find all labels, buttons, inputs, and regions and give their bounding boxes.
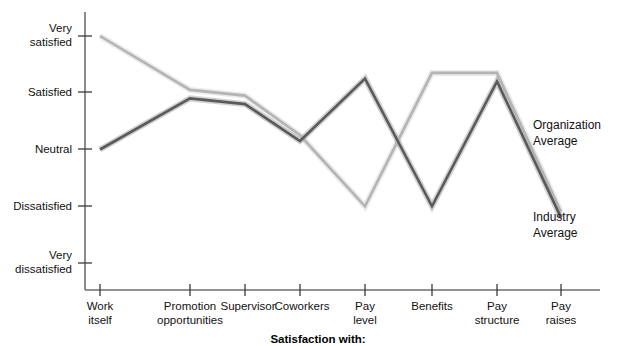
- x-tick-label-pay-structure-line1: Pay: [487, 300, 507, 312]
- label-organization-average-line1: Organization: [533, 118, 601, 132]
- y-tick-label-satisfied: Satisfied: [28, 86, 72, 98]
- y-tick-label-very-satisfied-line2: satisfied: [30, 36, 72, 48]
- x-tick-label-supervisor: Supervisor: [221, 300, 276, 312]
- x-tick-label-pay-level-line2: level: [353, 314, 377, 326]
- y-axis-tick-labels: Very satisfied Satisfied Neutral Dissati…: [13, 22, 72, 275]
- x-tick-label-pay-raises-line1: Pay: [551, 300, 571, 312]
- label-industry-average-line2: Average: [533, 226, 578, 240]
- x-tick-label-pay-raises-line2: raises: [546, 314, 577, 326]
- y-tick-label-neutral: Neutral: [35, 143, 72, 155]
- x-tick-label-work-itself-line1: Work: [87, 300, 114, 312]
- x-tick-label-coworkers: Coworkers: [275, 300, 330, 312]
- series-organization-average-shadow: [100, 36, 561, 212]
- label-industry-average-line1: Industry: [533, 210, 576, 224]
- y-tick-label-very-dissatisfied-line2: dissatisfied: [15, 263, 72, 275]
- label-organization-average-line2: Average: [533, 134, 578, 148]
- x-axis-tick-labels: Work itself Promotion opportunities Supe…: [87, 300, 577, 326]
- y-tick-label-dissatisfied: Dissatisfied: [13, 200, 72, 212]
- series-industry-average-shadow: [100, 79, 561, 218]
- x-tick-label-benefits: Benefits: [411, 300, 453, 312]
- x-axis-caption: Satisfaction with:: [270, 333, 365, 345]
- x-tick-label-promotion-line1: Promotion: [164, 300, 216, 312]
- y-tick-label-very-dissatisfied-line1: Very: [49, 249, 72, 261]
- x-tick-label-promotion-line2: opportunities: [157, 314, 223, 326]
- x-tick-label-pay-level-line1: Pay: [355, 300, 375, 312]
- x-tick-label-pay-structure-line2: structure: [475, 314, 520, 326]
- chart-svg: Very satisfied Satisfied Neutral Dissati…: [0, 0, 618, 346]
- x-tick-label-work-itself-line2: itself: [88, 314, 112, 326]
- series-organization-average-line: [100, 36, 561, 212]
- satisfaction-line-chart: Very satisfied Satisfied Neutral Dissati…: [0, 0, 618, 346]
- y-tick-label-very-satisfied-line1: Very: [49, 22, 72, 34]
- series-industry-average-line: [100, 79, 561, 218]
- series-group: [100, 36, 561, 218]
